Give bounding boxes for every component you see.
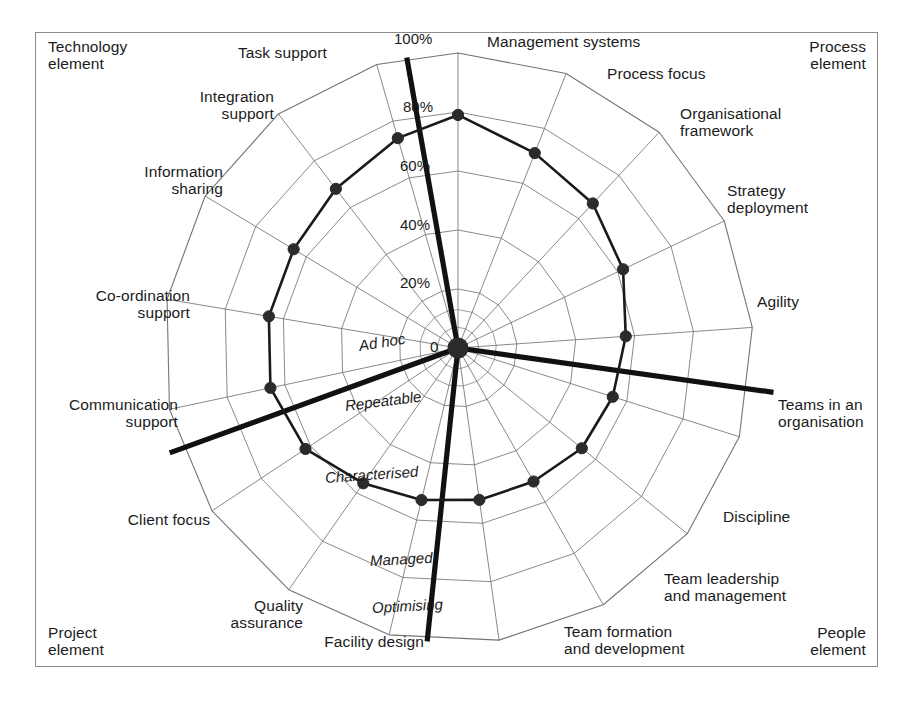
axis-label-strategy-deployment-line-2: deployment [727,199,808,216]
axis-label-information-sharing: Informationsharing [144,163,223,198]
radar-center-hub [448,338,469,359]
data-point-organisational-framework [587,198,598,209]
group-label-people-element-line-2: element [810,641,866,658]
data-point-process-focus [529,148,540,159]
axis-label-client-focus: Client focus [128,511,210,528]
axis-label-integration-support: Integrationsupport [200,88,274,123]
axis-label-management-systems-line-1: Management systems [487,33,640,50]
axis-label-co-ordination-support-line-2: support [96,304,190,321]
data-point-discipline [576,443,587,454]
axis-label-communication-support-line-2: support [69,413,178,430]
data-point-teams-in-an-organisation [607,391,618,402]
axis-label-process-focus-line-1: Process focus [607,65,706,82]
axis-label-facility-design: Facility design [324,633,424,650]
radial-tick-0: 0 [430,338,438,355]
axis-label-discipline: Discipline [723,508,790,525]
group-label-process-element: Processelement [809,38,866,73]
axis-label-task-support: Task support [238,44,327,61]
data-point-communication-support [265,382,276,393]
group-label-people-element-line-1: People [810,624,866,641]
group-label-technology-element-line-1: Technology [48,38,127,55]
maturity-label-managed: Managed [370,549,433,569]
axis-label-quality-assurance-line-1: Quality [231,597,303,614]
group-label-process-element-line-1: Process [809,38,866,55]
axis-label-communication-support-line-1: Communication [69,396,178,413]
axis-label-teams-in-an-organisation-line-2: organisation [778,413,864,430]
radial-tick-60: 60% [400,157,430,174]
group-label-process-element-line-2: element [809,55,866,72]
axis-label-co-ordination-support-line-1: Co-ordination [96,287,190,304]
axis-label-discipline-line-1: Discipline [723,508,790,525]
data-point-integration-support [330,183,341,194]
axis-label-agility: Agility [757,293,799,310]
axis-label-integration-support-line-2: support [200,105,274,122]
axis-label-management-systems: Management systems [487,33,640,50]
axis-label-integration-support-line-1: Integration [200,88,274,105]
axis-label-communication-support: Communicationsupport [69,396,178,431]
data-point-client-focus [300,443,311,454]
axis-label-team-leadership-and-management: Team leadershipand management [664,570,786,605]
axis-label-information-sharing-line-2: sharing [144,180,223,197]
data-point-management-systems [452,109,463,120]
axis-label-team-formation-and-development-line-2: and development [564,640,684,657]
radar-group-dividers [170,57,774,641]
axis-label-strategy-deployment: Strategydeployment [727,182,808,217]
axis-label-organisational-framework-line-1: Organisational [680,105,781,122]
axis-label-teams-in-an-organisation-line-1: Teams in an [778,396,864,413]
axis-label-information-sharing-line-1: Information [144,163,223,180]
radial-tick-20: 20% [400,274,430,291]
axis-label-team-leadership-and-management-line-2: and management [664,587,786,604]
axis-label-co-ordination-support: Co-ordinationsupport [96,287,190,322]
data-point-strategy-deployment [617,264,628,275]
data-point-co-ordination-support [263,311,274,322]
axis-label-quality-assurance-line-2: assurance [231,614,303,631]
data-point-information-sharing [288,244,299,255]
axis-label-strategy-deployment-line-1: Strategy [727,182,808,199]
group-label-technology-element-line-2: element [48,55,127,72]
axis-label-teams-in-an-organisation: Teams in anorganisation [778,396,864,431]
group-label-people-element: Peopleelement [810,624,866,659]
axis-label-organisational-framework-line-2: framework [680,122,781,139]
axis-label-team-leadership-and-management-line-1: Team leadership [664,570,786,587]
axis-label-facility-design-line-1: Facility design [324,633,424,650]
axis-label-team-formation-and-development: Team formationand development [564,623,684,658]
data-point-facility-design [416,494,427,505]
axis-label-agility-line-1: Agility [757,293,799,310]
group-label-project-element-line-1: Project [48,624,104,641]
data-point-task-support [392,133,403,144]
data-point-team-leadership-and-management [528,476,539,487]
data-point-team-formation-and-development [474,494,485,505]
data-point-agility [620,331,631,342]
axis-label-team-formation-and-development-line-1: Team formation [564,623,684,640]
axis-label-process-focus: Process focus [607,65,706,82]
group-label-project-element: Projectelement [48,624,104,659]
group-label-project-element-line-2: element [48,641,104,658]
axis-label-organisational-framework: Organisationalframework [680,105,781,140]
radial-tick-100: 100% [394,30,432,47]
radial-tick-80: 80% [403,98,433,115]
axis-label-client-focus-line-1: Client focus [128,511,210,528]
radial-tick-40: 40% [400,216,430,233]
axis-label-quality-assurance: Qualityassurance [231,597,303,632]
group-label-technology-element: Technologyelement [48,38,127,73]
axis-label-task-support-line-1: Task support [238,44,327,61]
